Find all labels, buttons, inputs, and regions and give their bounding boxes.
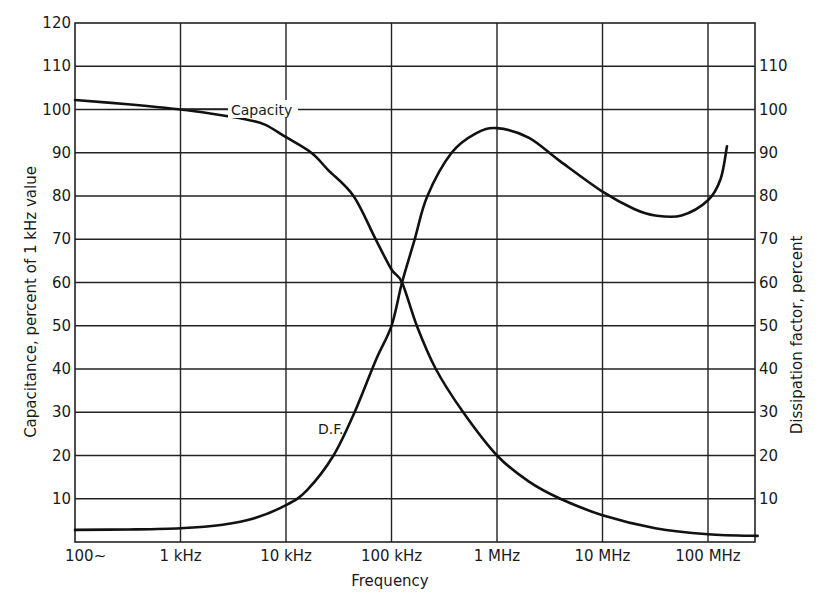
y-left-tick-label: 80 [52,187,71,205]
y-right-tick-label: 50 [759,317,778,335]
y-left-tick-label: 50 [52,317,71,335]
y-right-tick-label: 20 [759,447,778,465]
capacity-curve [75,100,758,536]
y-right-tick-label: 110 [759,57,788,75]
y-left-tick-label: 70 [52,230,71,248]
y-axis-right-title: Dissipation factor, percent [788,236,806,435]
dissipation-factor-curve [75,128,727,530]
grid-lines [75,23,755,542]
x-tick-label: 100 kHz [361,547,422,565]
y-right-tick-label: 30 [759,403,778,421]
y-axis-left-title: Capacitance, percent of 1 kHz value [22,166,40,438]
y-axis-left-tick-labels: 102030405060708090100110120 [42,14,71,508]
x-tick-label: 10 kHz [260,547,312,565]
y-right-tick-label: 100 [759,101,788,119]
x-tick-label: 100~ [65,547,106,565]
y-right-tick-label: 40 [759,360,778,378]
y-left-tick-label: 120 [42,14,71,32]
y-left-tick-label: 110 [42,57,71,75]
y-left-tick-label: 10 [52,490,71,508]
y-right-tick-label: 80 [759,187,778,205]
df-label: D.F. [318,421,343,437]
x-tick-label: 1 MHz [474,547,521,565]
x-tick-label: 10 MHz [575,547,631,565]
y-left-tick-label: 100 [42,101,71,119]
y-right-tick-label: 60 [759,274,778,292]
x-tick-label: 100 MHz [675,547,741,565]
y-left-tick-label: 40 [52,360,71,378]
capacity-label: Capacity [231,102,292,118]
y-left-tick-label: 60 [52,274,71,292]
y-right-tick-label: 90 [759,144,778,162]
y-axis-right-tick-labels: 102030405060708090100110 [759,57,788,508]
y-right-tick-label: 10 [759,490,778,508]
y-left-tick-label: 90 [52,144,71,162]
y-left-tick-label: 20 [52,447,71,465]
x-axis-title: Frequency [351,572,429,590]
y-left-tick-label: 30 [52,403,71,421]
x-axis-tick-labels: 100~1 kHz10 kHz100 kHz1 MHz10 MHz100 MHz [65,547,741,565]
chart-canvas: 102030405060708090100110120 102030405060… [0,0,824,604]
x-tick-label: 1 kHz [159,547,201,565]
y-right-tick-label: 70 [759,230,778,248]
